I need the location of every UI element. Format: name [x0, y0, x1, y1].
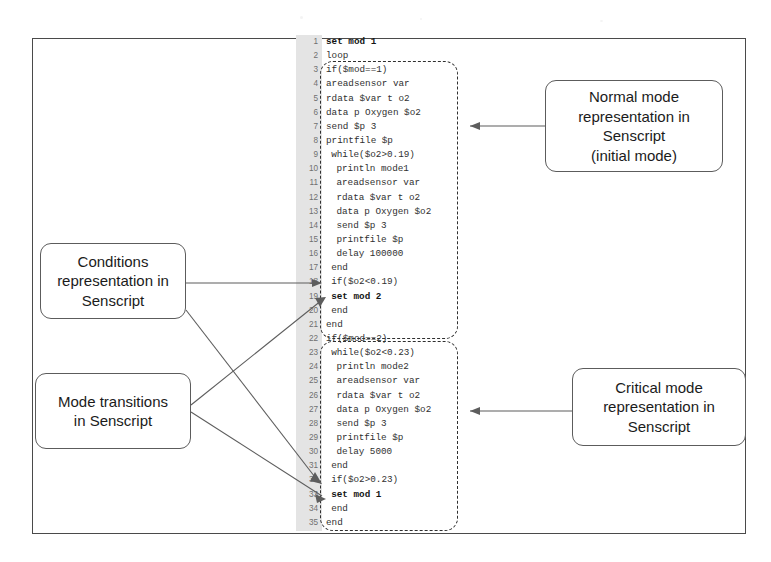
- code-line: 17end: [296, 261, 476, 275]
- code-line-number: 34: [296, 502, 318, 516]
- callout-conditions-line-1: Conditions: [57, 252, 169, 272]
- code-line: 24println mode2: [296, 360, 476, 374]
- figure-canvas: 1set mod 12loop3if($mod==1)4areadsensor …: [0, 0, 771, 562]
- code-line-number: 5: [296, 92, 318, 106]
- code-line-text: rdata $var t o2: [336, 191, 420, 205]
- callout-conditions-line-3: Senscript: [57, 291, 169, 311]
- callout-critical-line-2: representation in: [603, 397, 715, 417]
- code-line-text: send $p 3: [326, 120, 376, 134]
- code-line: 19set mod 2: [296, 290, 476, 304]
- code-line-number: 8: [296, 134, 318, 148]
- code-line-text: if($mod==1): [326, 63, 387, 77]
- code-line-number: 14: [296, 219, 318, 233]
- code-line: 10println mode1: [296, 162, 476, 176]
- code-line-number: 20: [296, 304, 318, 318]
- code-line-text: end: [331, 261, 348, 275]
- code-line-text: set mod 2: [331, 290, 381, 304]
- code-line-text: areadsensor var: [336, 374, 420, 388]
- code-line: 21end: [296, 318, 476, 332]
- code-line-number: 25: [296, 374, 318, 388]
- code-line-text: if($o2<0.19): [331, 275, 398, 289]
- callout-critical-mode: Critical mode representation in Senscrip…: [572, 368, 746, 446]
- code-line: 26rdata $var t o2: [296, 389, 476, 403]
- code-line: 4areadsensor var: [296, 77, 476, 91]
- code-line: 22if($mod==2): [296, 332, 476, 346]
- code-line: 33set mod 1: [296, 488, 476, 502]
- scan-speckle: [300, 16, 303, 19]
- code-line-number: 32: [296, 473, 318, 487]
- code-line: 9while($o2>0.19): [296, 148, 476, 162]
- code-line-number: 26: [296, 389, 318, 403]
- code-line-text: set mod 1: [331, 488, 381, 502]
- code-line-text: data p Oxygen $o2: [336, 205, 431, 219]
- code-line-text: delay 100000: [336, 247, 403, 261]
- code-line: 23while($o2<0.23): [296, 346, 476, 360]
- code-line: 14send $p 3: [296, 219, 476, 233]
- code-line: 28send $p 3: [296, 417, 476, 431]
- code-line: 13data p Oxygen $o2: [296, 205, 476, 219]
- code-line: 25areadsensor var: [296, 374, 476, 388]
- callout-normal-line-2: representation in: [578, 107, 690, 127]
- code-line-number: 28: [296, 417, 318, 431]
- code-line: 30delay 5000: [296, 445, 476, 459]
- code-line: 27data p Oxygen $o2: [296, 403, 476, 417]
- code-line: 32if($o2>0.23): [296, 473, 476, 487]
- code-line: 20end: [296, 304, 476, 318]
- code-line-text: end: [331, 459, 348, 473]
- code-line: 18if($o2<0.19): [296, 275, 476, 289]
- code-line-number: 2: [296, 49, 318, 63]
- code-line-text: if($o2>0.23): [331, 473, 398, 487]
- code-line-number: 3: [296, 63, 318, 77]
- code-line-text: rdata $var t o2: [326, 92, 410, 106]
- code-line-text: end: [331, 304, 348, 318]
- code-lines: 1set mod 12loop3if($mod==1)4areadsensor …: [296, 35, 476, 531]
- code-line: 1set mod 1: [296, 35, 476, 49]
- code-line: 16delay 100000: [296, 247, 476, 261]
- code-line-number: 24: [296, 360, 318, 374]
- code-line-text: end: [331, 502, 348, 516]
- code-line: 8printfile $p: [296, 134, 476, 148]
- callout-normal-line-4: (initial mode): [578, 146, 690, 166]
- code-line-number: 7: [296, 120, 318, 134]
- callout-transitions-line-1: Mode transitions: [58, 392, 168, 412]
- code-line-number: 6: [296, 106, 318, 120]
- code-line: 31end: [296, 459, 476, 473]
- code-line-text: areadsensor var: [326, 77, 410, 91]
- code-line-number: 30: [296, 445, 318, 459]
- scan-speckle: [600, 20, 603, 22]
- callout-conditions: Conditions representation in Senscript: [40, 243, 186, 319]
- code-line-text: areadsensor var: [336, 176, 420, 190]
- code-line-text: println mode1: [336, 162, 409, 176]
- code-line: 11areadsensor var: [296, 176, 476, 190]
- code-line: 6data p Oxygen $o2: [296, 106, 476, 120]
- code-line-text: delay 5000: [336, 445, 392, 459]
- code-line-number: 4: [296, 77, 318, 91]
- code-line-text: end: [326, 516, 343, 530]
- code-line-number: 27: [296, 403, 318, 417]
- code-line-text: loop: [326, 49, 348, 63]
- callout-conditions-line-2: representation in: [57, 271, 169, 291]
- callout-critical-line-1: Critical mode: [603, 378, 715, 398]
- senscript-code-listing: 1set mod 12loop3if($mod==1)4areadsensor …: [296, 35, 476, 531]
- code-line-number: 29: [296, 431, 318, 445]
- code-line-text: printfile $p: [326, 134, 393, 148]
- callout-mode-transitions: Mode transitions in Senscript: [35, 373, 191, 449]
- code-line-number: 33: [296, 488, 318, 502]
- code-line-number: 15: [296, 233, 318, 247]
- code-line-number: 16: [296, 247, 318, 261]
- code-line-number: 18: [296, 275, 318, 289]
- code-line-number: 31: [296, 459, 318, 473]
- code-line-number: 23: [296, 346, 318, 360]
- code-line: 29printfile $p: [296, 431, 476, 445]
- code-line: 3if($mod==1): [296, 63, 476, 77]
- code-line-number: 22: [296, 332, 318, 346]
- callout-normal-line-3: Senscript: [578, 126, 690, 146]
- code-line-number: 10: [296, 162, 318, 176]
- scan-speckle: [420, 18, 422, 20]
- code-line-text: data p Oxygen $o2: [326, 106, 421, 120]
- callout-transitions-line-2: in Senscript: [58, 411, 168, 431]
- code-line-number: 11: [296, 176, 318, 190]
- code-line-number: 17: [296, 261, 318, 275]
- code-line-number: 19: [296, 290, 318, 304]
- code-line: 2loop: [296, 49, 476, 63]
